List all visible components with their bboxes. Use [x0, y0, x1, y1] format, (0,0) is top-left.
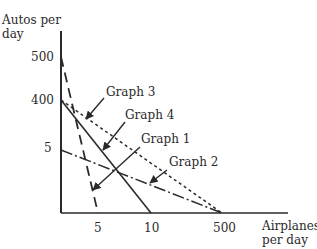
graph-4-label: Graph 4: [125, 108, 174, 122]
graph-3-arrow: [86, 98, 104, 119]
graph-3-line: [61, 57, 98, 213]
graph-4-arrow: [103, 122, 125, 150]
x-axis-title-line1: Airplanes: [262, 219, 317, 233]
x-tick-5: 5: [94, 221, 102, 235]
chart-plot: [0, 0, 317, 249]
y-tick-500: 500: [31, 50, 54, 64]
y-tick-5: 5: [44, 141, 52, 155]
y-axis-title-line1: Autos per: [2, 13, 61, 27]
x-tick-10: 10: [144, 221, 159, 235]
y-axis-title-line2: day: [2, 27, 24, 41]
x-axis-title-line2: per day: [262, 233, 308, 247]
graph-1-arrow: [93, 147, 140, 190]
x-tick-500: 500: [213, 221, 236, 235]
graph-1-label: Graph 1: [141, 132, 190, 146]
graph-2-arrow: [150, 170, 167, 183]
y-tick-400: 400: [31, 93, 54, 107]
graph-2-label: Graph 2: [169, 155, 218, 169]
graph-3-label: Graph 3: [106, 85, 155, 99]
